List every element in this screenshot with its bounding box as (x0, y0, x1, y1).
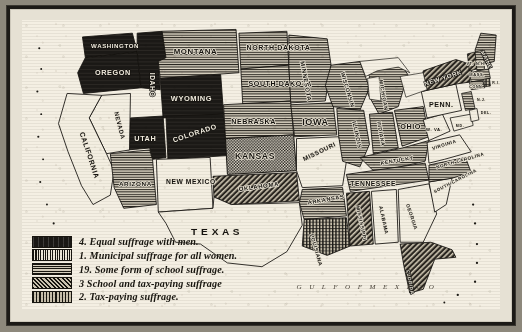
legend-label-school-tax: 3 School and tax-paying suffrage (79, 278, 222, 289)
legend-swatch-tax (32, 291, 72, 303)
legend-label-equal: 4. Equal suffrage with men. (79, 236, 199, 247)
suffrage-map-page: WASHINGTON OREGON IDAHO MONTANA WYOMING … (0, 0, 522, 332)
map-paper: WASHINGTON OREGON IDAHO MONTANA WYOMING … (22, 20, 500, 310)
label-delaware: DEL. (481, 111, 492, 115)
label-utah: UTAH (134, 134, 156, 143)
label-montana: MONTANA (174, 47, 218, 56)
legend-item-school-tax[interactable]: 3 School and tax-paying suffrage (32, 276, 290, 289)
print-border-outer: WASHINGTON OREGON IDAHO MONTANA WYOMING … (0, 0, 522, 332)
label-idaho: IDAHO (149, 73, 156, 98)
label-north-dakota: NORTH DAKOTA (247, 44, 311, 51)
print-border-rule: WASHINGTON OREGON IDAHO MONTANA WYOMING … (7, 6, 515, 325)
legend-item-equal[interactable]: 4. Equal suffrage with men. (32, 235, 290, 248)
state-delaware[interactable] (469, 109, 479, 122)
label-maryland: MD. (456, 124, 464, 128)
legend-item-school[interactable]: 19. Some form of school suffrage. (32, 263, 290, 276)
label-pennsylvania: PENN. (429, 101, 454, 108)
label-new-hampshire: N.H. (476, 62, 486, 66)
label-west-virginia: W. VA. (426, 127, 442, 132)
label-oregon: OREGON (95, 68, 131, 77)
label-wyoming: WYOMING (171, 94, 212, 103)
label-vermont: VT. (466, 62, 473, 66)
legend-label-municipal: 1. Municipal suffrage for all women. (79, 250, 237, 261)
label-iowa: IOWA (302, 118, 328, 128)
legend-swatch-school (32, 263, 72, 275)
legend-swatch-municipal (32, 249, 72, 261)
label-nebraska: NEBRASKA (231, 118, 276, 125)
legend-label-school: 19. Some form of school suffrage. (79, 264, 224, 275)
label-arizona: ARIZONA (119, 180, 152, 187)
state-rhode-island[interactable] (484, 78, 491, 86)
label-connecticut: CONN. (469, 85, 484, 89)
state-arkansas[interactable] (299, 188, 346, 220)
label-massachusetts: MASS. (469, 73, 485, 78)
label-ohio: OHIO (400, 122, 421, 131)
label-tennessee: TENNESSEE (350, 180, 396, 187)
label-kansas: KANSAS (235, 151, 275, 161)
label-new-jersey: N.J. (477, 98, 486, 102)
gulf-of-mexico-label: G U L F O F M E X I C O (297, 283, 437, 291)
label-washington: WASHINGTON (91, 42, 139, 49)
map-legend: 4. Equal suffrage with men. 1. Municipal… (32, 235, 290, 304)
label-new-mexico: NEW MEXICO (166, 178, 216, 185)
legend-label-tax: 2. Tax-paying suffrage. (79, 291, 179, 302)
label-south-dakota: SOUTH DAKOTA (249, 80, 312, 87)
label-rhode-island: R.I. (492, 81, 500, 85)
legend-swatch-school-tax (32, 277, 72, 289)
legend-item-municipal[interactable]: 1. Municipal suffrage for all women. (32, 249, 290, 262)
legend-swatch-equal (32, 236, 72, 248)
legend-item-tax[interactable]: 2. Tax-paying suffrage. (32, 290, 290, 303)
